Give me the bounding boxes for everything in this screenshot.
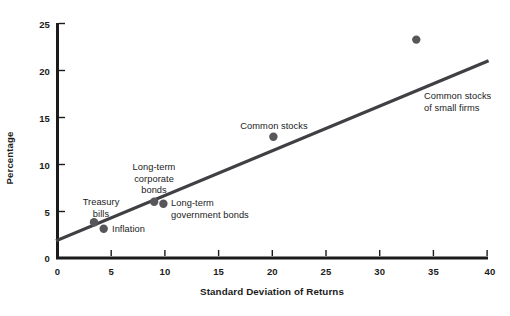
point-label-common-stocks: Common stocks [236, 121, 312, 133]
x-tick-label-0: 0 [55, 266, 60, 277]
x-tick-label-5: 5 [108, 266, 113, 277]
point-label-treasury-bills: Treasury bills [72, 197, 130, 220]
marker-inflation [100, 225, 108, 233]
x-tick-label-25: 25 [321, 266, 332, 277]
x-tick-label-30: 30 [374, 266, 385, 277]
risk-return-chart: 25 20 15 10 5 0 0 5 10 15 20 25 30 35 40… [0, 0, 510, 316]
x-tick-label-15: 15 [213, 266, 224, 277]
x-tick-label-35: 35 [428, 266, 439, 277]
marker-common-stocks [269, 133, 277, 141]
y-axis-title: Percentage [4, 88, 15, 228]
marker-longterm-corporate-bonds [150, 198, 158, 206]
y-tick-label-0: 0 [30, 253, 50, 264]
y-axis-ticks [59, 24, 65, 212]
y-tick-label-15: 15 [30, 113, 50, 124]
marker-longterm-government-bonds [159, 200, 167, 208]
x-tick-label-10: 10 [160, 266, 171, 277]
y-tick-label-10: 10 [30, 160, 50, 171]
point-label-longterm-government-bonds: Long-term government bonds [171, 198, 275, 221]
y-tick-label-5: 5 [30, 207, 50, 218]
x-tick-label-40: 40 [485, 266, 496, 277]
marker-common-stocks-small-firms [412, 35, 420, 43]
point-label-common-stocks-small-firms: Common stocks of small firms [424, 91, 510, 114]
x-axis-ticks [58, 250, 488, 256]
y-tick-label-20: 20 [30, 66, 50, 77]
point-label-longterm-corporate-bonds: Long-term corporate bonds [118, 162, 190, 197]
x-tick-label-20: 20 [267, 266, 278, 277]
point-label-inflation: Inflation [112, 224, 145, 236]
x-axis-title: Standard Deviation of Returns [57, 286, 487, 297]
y-tick-label-25: 25 [30, 19, 50, 30]
